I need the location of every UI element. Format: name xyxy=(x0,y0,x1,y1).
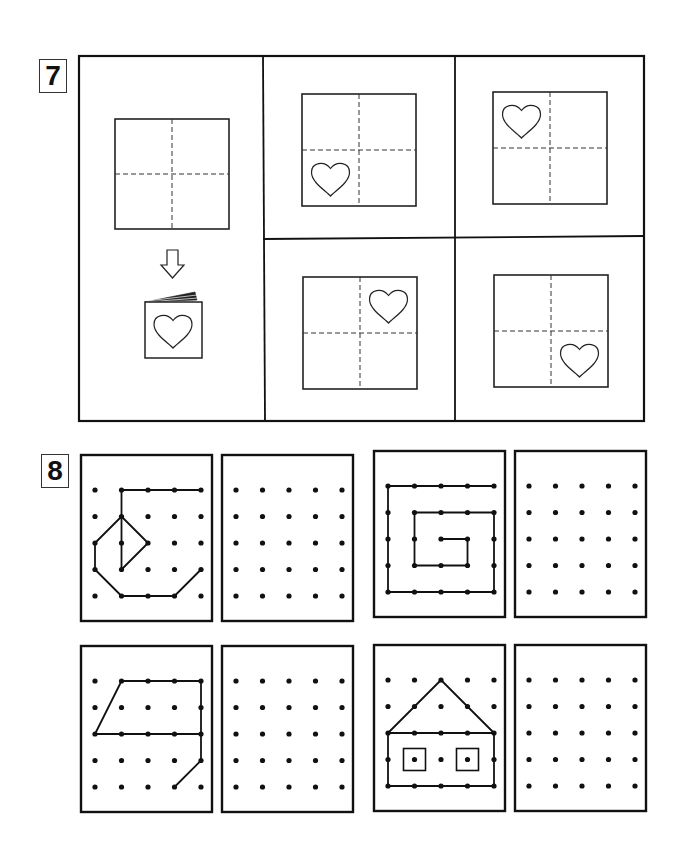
grid-dot[interactable] xyxy=(260,593,265,598)
dot-grid-copy[interactable] xyxy=(515,645,646,811)
grid-dot[interactable] xyxy=(260,514,265,519)
grid-dot[interactable] xyxy=(553,510,558,515)
grid-dot[interactable] xyxy=(233,540,238,545)
grid-dot[interactable] xyxy=(632,510,637,515)
grid-dot[interactable] xyxy=(260,540,265,545)
grid-dot[interactable] xyxy=(339,784,344,789)
grid-dot[interactable] xyxy=(526,783,531,788)
grid-dot[interactable] xyxy=(339,705,344,710)
grid-dot[interactable] xyxy=(632,730,637,735)
grid-dot[interactable] xyxy=(260,758,265,763)
grid-dot[interactable] xyxy=(339,487,344,492)
grid-dot[interactable] xyxy=(526,483,531,488)
grid-dot[interactable] xyxy=(526,704,531,709)
dot-grid-copy[interactable] xyxy=(515,451,646,617)
answer-option-d[interactable] xyxy=(494,275,608,387)
grid-dot[interactable] xyxy=(526,563,531,568)
grid-dot[interactable] xyxy=(313,705,318,710)
dot-grid-copy[interactable] xyxy=(222,455,353,621)
grid-dot[interactable] xyxy=(339,593,344,598)
grid-dot[interactable] xyxy=(632,483,637,488)
grid-dot[interactable] xyxy=(606,757,611,762)
grid-dot[interactable] xyxy=(606,677,611,682)
grid-dot[interactable] xyxy=(260,567,265,572)
grid-dot[interactable] xyxy=(233,731,238,736)
grid-dot[interactable] xyxy=(526,536,531,541)
grid-dot[interactable] xyxy=(313,540,318,545)
grid-dot[interactable] xyxy=(579,757,584,762)
grid-dot[interactable] xyxy=(632,783,637,788)
grid-dot[interactable] xyxy=(553,536,558,541)
grid-dot[interactable] xyxy=(606,536,611,541)
grid-dot[interactable] xyxy=(579,563,584,568)
grid-dot[interactable] xyxy=(260,731,265,736)
grid-dot[interactable] xyxy=(579,730,584,735)
grid-dot[interactable] xyxy=(553,677,558,682)
grid-dot[interactable] xyxy=(313,678,318,683)
grid-dot[interactable] xyxy=(233,758,238,763)
grid-dot[interactable] xyxy=(233,784,238,789)
grid-dot[interactable] xyxy=(233,567,238,572)
grid-dot[interactable] xyxy=(526,757,531,762)
grid-dot[interactable] xyxy=(233,487,238,492)
grid-dot[interactable] xyxy=(233,705,238,710)
grid-dot[interactable] xyxy=(313,487,318,492)
grid-dot[interactable] xyxy=(233,514,238,519)
grid-dot[interactable] xyxy=(339,678,344,683)
grid-dot[interactable] xyxy=(260,487,265,492)
grid-dot[interactable] xyxy=(632,536,637,541)
grid-dot[interactable] xyxy=(286,731,291,736)
grid-dot[interactable] xyxy=(286,540,291,545)
grid-dot[interactable] xyxy=(579,536,584,541)
grid-dot[interactable] xyxy=(579,483,584,488)
grid-dot[interactable] xyxy=(606,510,611,515)
grid-dot[interactable] xyxy=(579,677,584,682)
grid-dot[interactable] xyxy=(286,705,291,710)
grid-dot[interactable] xyxy=(260,784,265,789)
grid-dot[interactable] xyxy=(606,589,611,594)
grid-dot[interactable] xyxy=(526,510,531,515)
grid-dot[interactable] xyxy=(579,704,584,709)
grid-dot[interactable] xyxy=(553,757,558,762)
dot-grid-copy[interactable] xyxy=(222,646,353,812)
grid-dot[interactable] xyxy=(526,730,531,735)
grid-dot[interactable] xyxy=(553,730,558,735)
grid-dot[interactable] xyxy=(606,704,611,709)
grid-dot[interactable] xyxy=(526,589,531,594)
grid-dot[interactable] xyxy=(632,757,637,762)
grid-dot[interactable] xyxy=(313,758,318,763)
grid-dot[interactable] xyxy=(632,704,637,709)
grid-dot[interactable] xyxy=(339,567,344,572)
grid-dot[interactable] xyxy=(632,677,637,682)
grid-dot[interactable] xyxy=(579,783,584,788)
grid-dot[interactable] xyxy=(632,589,637,594)
grid-dot[interactable] xyxy=(286,593,291,598)
grid-dot[interactable] xyxy=(286,758,291,763)
grid-dot[interactable] xyxy=(606,730,611,735)
grid-dot[interactable] xyxy=(553,563,558,568)
grid-dot[interactable] xyxy=(286,678,291,683)
grid-dot[interactable] xyxy=(286,784,291,789)
grid-dot[interactable] xyxy=(553,589,558,594)
grid-dot[interactable] xyxy=(632,563,637,568)
grid-dot[interactable] xyxy=(260,678,265,683)
grid-dot[interactable] xyxy=(233,678,238,683)
grid-dot[interactable] xyxy=(339,514,344,519)
grid-dot[interactable] xyxy=(579,589,584,594)
answer-option-c[interactable] xyxy=(303,277,417,389)
grid-dot[interactable] xyxy=(606,483,611,488)
grid-dot[interactable] xyxy=(606,783,611,788)
grid-dot[interactable] xyxy=(286,567,291,572)
grid-dot[interactable] xyxy=(286,514,291,519)
grid-dot[interactable] xyxy=(233,593,238,598)
grid-dot[interactable] xyxy=(606,563,611,568)
grid-dot[interactable] xyxy=(339,758,344,763)
grid-dot[interactable] xyxy=(313,593,318,598)
grid-dot[interactable] xyxy=(579,510,584,515)
grid-dot[interactable] xyxy=(313,784,318,789)
grid-dot[interactable] xyxy=(313,731,318,736)
grid-dot[interactable] xyxy=(313,514,318,519)
grid-dot[interactable] xyxy=(260,705,265,710)
answer-option-a[interactable] xyxy=(302,94,416,206)
grid-dot[interactable] xyxy=(553,783,558,788)
